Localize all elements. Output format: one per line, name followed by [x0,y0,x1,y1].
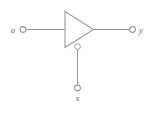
buffer-triangle-body [65,12,94,48]
enable-label-s: s [76,93,80,103]
output-terminal-y[interactable] [130,27,136,33]
input-terminal-a[interactable] [20,27,26,33]
schematic-canvas: a y s [0,0,155,114]
schematic-svg: a y s [0,0,155,114]
input-label-a: a [11,25,16,35]
output-label-y: y [138,25,143,35]
enable-terminal-s[interactable] [75,85,81,91]
enable-inversion-bubble-icon [75,44,81,50]
